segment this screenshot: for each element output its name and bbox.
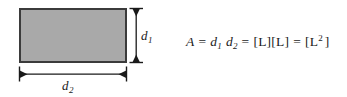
equation-unit-close-bracket: ] — [284, 34, 289, 49]
height-symbol: d — [141, 28, 148, 43]
equation-result-base: L — [310, 34, 318, 49]
dimensional-analysis-figure: d1 d2 A=d1d2=[L][L]=[L2] — [0, 0, 347, 97]
width-dimension-label: d2 — [62, 79, 73, 92]
equation-unit-mid-brackets: ][ — [267, 34, 276, 49]
height-dimension-label: d1 — [141, 29, 152, 42]
equation-second-factor-symbol: d — [226, 34, 233, 49]
equation-unit-length-1: L — [258, 34, 266, 49]
equation-area-symbol: A — [186, 34, 194, 49]
width-subscript: 2 — [69, 85, 74, 95]
equation-result-exponent: 2 — [318, 33, 323, 43]
equation-first-factor-subscript: 1 — [217, 41, 222, 51]
equation-equals-3: = — [293, 34, 301, 49]
area-equation: A=d1d2=[L][L]=[L2] — [186, 35, 330, 49]
equation-equals-2: = — [242, 34, 250, 49]
width-symbol: d — [62, 78, 69, 93]
equation-result-close-bracket: ] — [325, 34, 330, 49]
area-rectangle — [19, 8, 127, 63]
equation-second-factor-subscript: 2 — [233, 41, 238, 51]
height-subscript: 1 — [148, 35, 153, 45]
equation-equals-1: = — [198, 34, 206, 49]
width-dimension-line — [20, 67, 127, 82]
